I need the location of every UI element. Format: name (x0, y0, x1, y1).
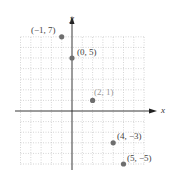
point-2-1 (90, 98, 95, 103)
point-5-neg5 (121, 161, 126, 166)
point-4-neg3 (111, 140, 116, 145)
point-0-5 (69, 55, 74, 60)
x-axis-label: x (161, 106, 165, 115)
point-label: (4, −3) (117, 132, 142, 141)
point-neg1-7 (59, 34, 64, 39)
scatter-plot (0, 0, 173, 175)
y-axis-label: y (70, 14, 74, 23)
axes (15, 22, 152, 170)
point-label: (2, 1) (94, 88, 114, 97)
point-label: (0, 5) (77, 48, 97, 57)
x-axis-arrow-icon (149, 109, 157, 114)
point-label: (5, −5) (127, 154, 152, 163)
point-label: (−1, 7) (31, 26, 56, 35)
